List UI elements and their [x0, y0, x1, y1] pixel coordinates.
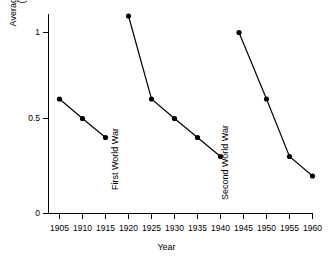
data-point	[310, 173, 315, 178]
chart-container: 0 0.5 1 1905 1910 1915 1920 1925 1930 19…	[0, 0, 333, 270]
y-axis-ticks	[43, 33, 48, 214]
series-post-second-world-war	[236, 30, 315, 179]
x-tick-label-1960: 1960	[298, 224, 327, 233]
annotation-first-world-war: First World War	[111, 128, 120, 190]
series-pre-first-world-war	[57, 96, 108, 140]
x-axis-ticks	[60, 214, 313, 219]
data-point	[172, 116, 177, 121]
series-interwar	[126, 13, 223, 159]
y-axis-title-line1: Average weight/day	[9, 0, 18, 52]
annotation-second-world-war: Second World War	[221, 125, 230, 200]
data-point	[149, 96, 154, 101]
data-point	[195, 135, 200, 140]
data-point	[80, 116, 85, 121]
y-tick-label-0-5: 0.5	[10, 114, 40, 123]
y-axis-title: Average weight/day (tonnes)	[9, 0, 28, 52]
y-tick-label-0: 0	[10, 209, 40, 218]
data-point	[103, 135, 108, 140]
data-point	[287, 154, 292, 159]
series-line	[129, 16, 221, 157]
data-point	[57, 96, 62, 101]
y-axis-title-line2: (tonnes)	[18, 0, 27, 52]
data-point	[236, 30, 241, 35]
data-point	[264, 96, 269, 101]
x-axis-title: Year	[0, 243, 333, 252]
series-line	[239, 33, 313, 177]
data-point	[126, 13, 131, 18]
